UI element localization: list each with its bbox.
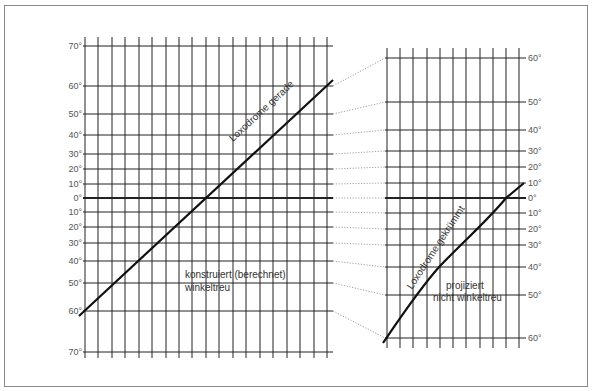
dotted-connector — [333, 102, 385, 114]
dotted-connector — [333, 283, 385, 295]
latitude-label: 30° — [68, 238, 82, 248]
dotted-connector — [333, 261, 385, 267]
annotations: konstruiert (berechnet) winkeltreu Loxod… — [184, 78, 502, 303]
dotted-connector — [333, 183, 385, 184]
latitude-label: 40° — [528, 262, 542, 272]
dotted-connector — [333, 212, 385, 213]
latitude-label: 50° — [68, 278, 82, 288]
dotted-connector — [333, 151, 385, 154]
latitude-label: 30° — [68, 149, 82, 159]
left-line-label: Loxodrome gerade — [227, 78, 296, 144]
latitude-connectors — [333, 58, 385, 338]
right-subtitle: nicht winkeltreu — [433, 292, 502, 303]
latitude-label: 30° — [528, 240, 542, 250]
dotted-connector — [333, 311, 385, 338]
latitude-label: 20° — [68, 222, 82, 232]
latitude-label: 10° — [528, 178, 542, 188]
right-title: projiziert — [446, 280, 484, 291]
latitude-label: 0° — [528, 193, 537, 203]
latitude-label: 20° — [528, 162, 542, 172]
latitude-label: 50° — [528, 290, 542, 300]
latitude-label: 60° — [68, 81, 82, 91]
latitude-label: 60° — [528, 333, 542, 343]
latitude-label: 40° — [68, 256, 82, 266]
latitude-label: 20° — [528, 224, 542, 234]
dotted-connector — [333, 243, 385, 245]
dotted-connector — [333, 130, 385, 135]
right-grid-projected: 60°50°40°30°20°10°0°10°20°30°40°50°60° — [385, 48, 542, 348]
latitude-label: 10° — [68, 207, 82, 217]
dotted-connector — [333, 58, 385, 86]
latitude-label: 10° — [68, 179, 82, 189]
latitude-label: 70° — [68, 347, 82, 357]
latitude-label: 10° — [528, 208, 542, 218]
latitude-label: 0° — [73, 193, 82, 203]
left-title: konstruiert (berechnet) — [185, 269, 286, 280]
left-subtitle: winkeltreu — [184, 282, 230, 293]
latitude-label: 40° — [68, 130, 82, 140]
latitude-label: 60° — [528, 53, 542, 63]
latitude-label: 30° — [528, 146, 542, 156]
latitude-label: 40° — [528, 125, 542, 135]
dotted-connector — [333, 227, 385, 229]
dotted-connector — [333, 167, 385, 169]
loxodrome-diagram: 70°60°50°40°30°20°10°0°10°20°30°40°50°60… — [0, 0, 592, 391]
latitude-label: 50° — [528, 97, 542, 107]
latitude-label: 50° — [68, 109, 82, 119]
latitude-label: 20° — [68, 164, 82, 174]
latitude-label: 70° — [68, 41, 82, 51]
